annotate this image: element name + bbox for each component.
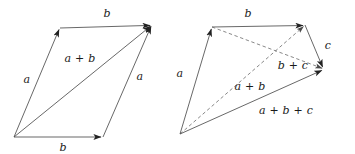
label-a-plus-b-plus-c-right-panel: a + b + c: [259, 105, 313, 116]
label-a-plus-b-right-panel: a + b: [235, 81, 266, 92]
arrow-a-plus-b-diagonal: [14, 26, 151, 137]
label-b-right-panel: b: [244, 8, 251, 19]
label-b-plus-c-right-panel: b + c: [278, 60, 308, 71]
label-a-left-left-panel: a: [24, 74, 31, 85]
label-b-bottom-left-panel: b: [59, 142, 66, 153]
vector-addition-figure: b a a + b a b b c b + c a + b a + b + c …: [0, 0, 355, 154]
label-a-plus-b-left-panel: a + b: [65, 53, 96, 64]
arrow-b: [212, 26, 303, 28]
label-a-right-panel: a: [177, 68, 184, 79]
arrow-a-right: [103, 27, 151, 138]
label-b-top-left-panel: b: [103, 8, 110, 19]
panel-parallelogram-law: [14, 25, 151, 137]
label-a-right-left-panel: a: [137, 71, 144, 82]
label-c-right-panel: c: [325, 40, 331, 51]
arrow-b-top: [60, 25, 150, 28]
arrow-a: [180, 29, 211, 134]
arrow-a-left: [14, 30, 59, 138]
